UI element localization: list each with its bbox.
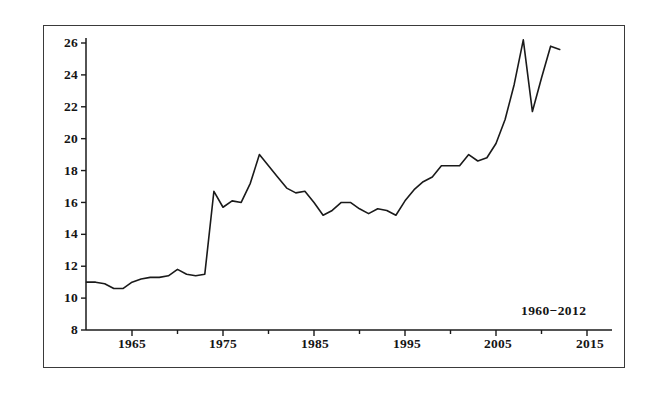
x-tick-label-2005: 2005 xyxy=(473,336,523,352)
y-tick-label-14: 14 xyxy=(44,226,78,242)
chart-figure: 26 24 22 20 18 16 14 12 10 8 1965 1975 1… xyxy=(0,0,662,394)
y-tick-label-12: 12 xyxy=(44,258,78,274)
x-tick-label-1995: 1995 xyxy=(382,336,432,352)
y-tick-label-22: 22 xyxy=(44,99,78,115)
y-tick-label-18: 18 xyxy=(44,163,78,179)
y-tick-label-8: 8 xyxy=(44,322,78,338)
y-tick-label-20: 20 xyxy=(44,131,78,147)
x-tick-label-1985: 1985 xyxy=(290,336,340,352)
x-tick-label-1965: 1965 xyxy=(107,336,157,352)
x-tick-label-2015: 2015 xyxy=(565,336,615,352)
x-tick-label-1975: 1975 xyxy=(198,336,248,352)
plot-canvas xyxy=(0,0,662,394)
y-tick-label-10: 10 xyxy=(44,290,78,306)
range-annotation: 1960−2012 xyxy=(521,303,586,319)
data-line-series-value xyxy=(87,40,560,289)
y-tick-label-16: 16 xyxy=(44,195,78,211)
y-tick-label-24: 24 xyxy=(44,67,78,83)
y-tick-label-26: 26 xyxy=(44,35,78,51)
